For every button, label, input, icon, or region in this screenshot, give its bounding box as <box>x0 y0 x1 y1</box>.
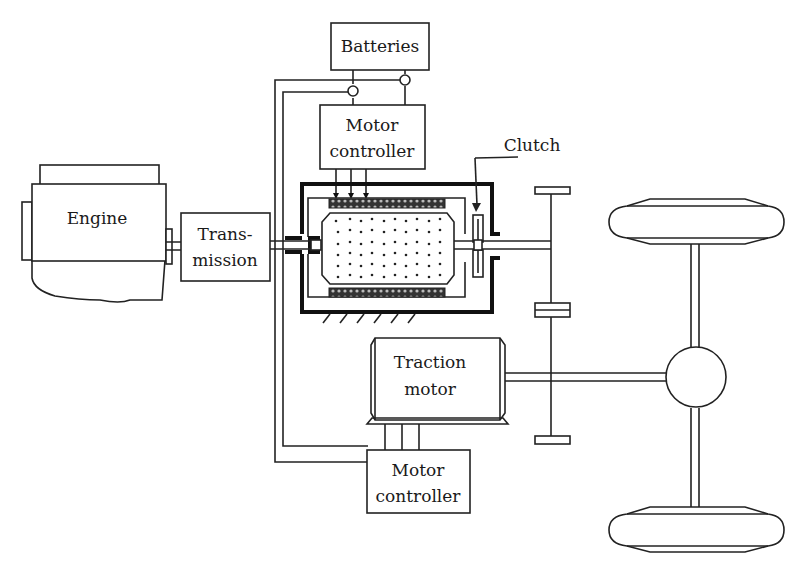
electric-machine <box>285 184 500 323</box>
connector-node-icon <box>400 75 410 85</box>
wheel-bottom <box>609 507 784 552</box>
transmission-label-1: Trans- <box>197 224 252 244</box>
engine-block: Engine <box>22 165 172 302</box>
connector-node-icon <box>348 86 358 96</box>
transmission-label-2: mission <box>192 250 258 270</box>
batteries-block: Batteries <box>331 23 429 70</box>
traction-motor-label-1: Traction <box>394 352 467 372</box>
differential-icon <box>666 347 726 407</box>
clutch: Clutch <box>454 135 560 277</box>
batteries-label: Batteries <box>341 36 420 56</box>
ground-hatch-icon <box>323 314 415 323</box>
motor-controller-top-label-2: controller <box>330 141 416 161</box>
motor-controller-top-label-1: Motor <box>346 115 400 135</box>
wheel-top <box>609 199 784 244</box>
motor-controller-bottom: Motor controller <box>367 450 470 513</box>
transmission-block: Trans- mission <box>181 213 270 281</box>
traction-motor: Traction motor <box>367 338 666 450</box>
hybrid-drivetrain-diagram: Batteries Motor controller <box>0 0 801 571</box>
clutch-label: Clutch <box>504 135 561 155</box>
motor-controller-bottom-label-1: Motor <box>392 460 446 480</box>
rear-axle <box>666 243 726 508</box>
engine-label: Engine <box>67 208 128 228</box>
gear-shaft <box>535 187 570 444</box>
traction-motor-label-2: motor <box>404 379 456 399</box>
motor-controller-bottom-label-2: controller <box>376 486 462 506</box>
